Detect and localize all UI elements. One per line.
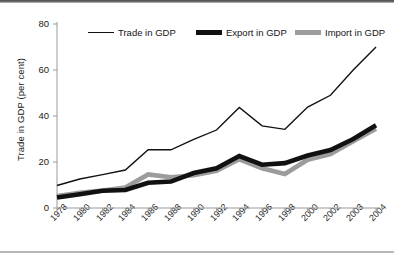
series-line-export-in-gdp xyxy=(57,125,376,197)
series-line-import-in-gdp xyxy=(57,129,376,196)
plot-area xyxy=(0,0,394,253)
chart-figure: Trade in GDP (per cent) 020406080 197819… xyxy=(0,0,394,253)
series-line-trade-in-gdp xyxy=(57,47,376,185)
axis-lines xyxy=(53,22,380,212)
series-lines xyxy=(57,47,376,197)
